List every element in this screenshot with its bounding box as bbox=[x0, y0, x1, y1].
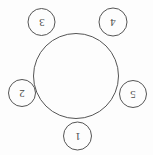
node-label-5: 5 bbox=[130, 89, 136, 100]
node-label-4: 4 bbox=[110, 17, 116, 28]
central-circle bbox=[34, 34, 119, 119]
node-label-3: 3 bbox=[39, 17, 45, 28]
node-label-1: 1 bbox=[75, 131, 81, 142]
node-label-2: 2 bbox=[19, 88, 25, 99]
diagram-canvas: 12345 bbox=[0, 0, 153, 155]
